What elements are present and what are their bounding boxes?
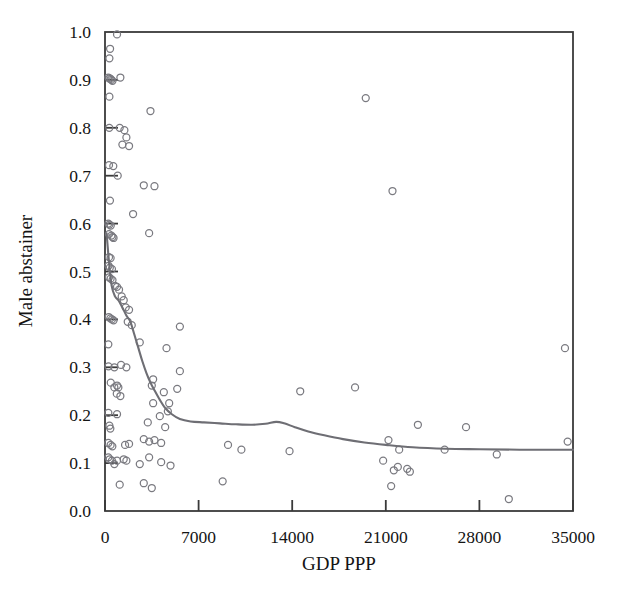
x-tick-label: 0 <box>101 527 110 547</box>
y-tick-label: 0.4 <box>69 309 91 329</box>
x-tick-label: 35000 <box>551 527 595 547</box>
y-tick-label: 0.8 <box>69 118 91 138</box>
y-tick-label: 0.2 <box>69 405 91 425</box>
chart-figure: 0700014000210002800035000 0.00.10.20.30.… <box>0 0 623 599</box>
y-tick-label: 0.3 <box>69 357 91 377</box>
y-tick-label: 0.0 <box>69 501 91 521</box>
y-tick-label: 0.7 <box>69 166 91 186</box>
y-tick-label: 0.6 <box>69 214 91 234</box>
y-axis-title: Male abstainer <box>15 214 36 327</box>
x-tick-label: 7000 <box>181 527 216 547</box>
scatter-plot: 0700014000210002800035000 0.00.10.20.30.… <box>0 0 623 599</box>
y-tick-label: 0.1 <box>69 453 91 473</box>
x-tick-label: 14000 <box>270 527 314 547</box>
x-tick-label: 28000 <box>458 527 502 547</box>
x-tick-label: 21000 <box>364 527 408 547</box>
y-tick-label: 0.9 <box>69 70 91 90</box>
chart-background <box>0 0 623 599</box>
y-tick-label: 1.0 <box>69 22 91 42</box>
y-tick-label: 0.5 <box>69 262 91 282</box>
x-axis-title: GDP PPP <box>302 553 376 574</box>
